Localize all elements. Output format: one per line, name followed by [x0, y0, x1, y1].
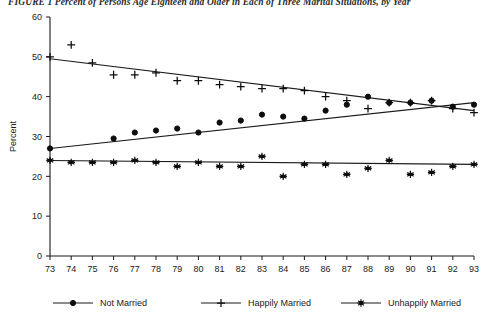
- data-point-marker: [110, 71, 118, 79]
- chart-plot-area: 0102030405060737475767778798081828384858…: [0, 10, 495, 275]
- data-point-core: [303, 163, 306, 166]
- x-tick-label: 76: [109, 264, 119, 274]
- data-point-marker: [47, 146, 52, 151]
- y-tick-label: 50: [32, 52, 42, 62]
- data-point-marker: [217, 120, 222, 125]
- data-point-marker: [175, 126, 180, 131]
- x-tick-label: 80: [193, 264, 203, 274]
- asterisk-star-marker: [340, 297, 382, 309]
- legend-item-not-married[interactable]: Not Married: [52, 292, 147, 314]
- x-tick-label: 87: [342, 264, 352, 274]
- y-axis-title: Percent: [8, 120, 18, 152]
- data-point-marker: [407, 99, 415, 107]
- data-point-marker: [237, 83, 245, 91]
- x-tick-label: 75: [87, 264, 97, 274]
- figure-title: FIGURE 1 Percent of Persons Age Eighteen…: [8, 0, 495, 7]
- data-point-marker: [132, 130, 137, 135]
- data-point-marker: [471, 102, 476, 107]
- data-point-core: [70, 161, 73, 164]
- data-point-marker: [131, 71, 139, 79]
- data-point-marker: [152, 69, 160, 77]
- data-point-marker: [365, 94, 370, 99]
- filled-circle-marker: [52, 297, 94, 309]
- y-tick-label: 60: [32, 12, 42, 22]
- y-tick-label: 30: [32, 132, 42, 142]
- data-point-core: [409, 173, 412, 176]
- data-point-core: [176, 165, 179, 168]
- data-point-core: [155, 161, 158, 164]
- data-point-marker: [196, 130, 201, 135]
- data-point-core: [324, 163, 327, 166]
- x-tick-label: 79: [172, 264, 182, 274]
- data-point-core: [49, 159, 52, 162]
- data-point-marker: [322, 93, 330, 101]
- data-point-marker: [302, 116, 307, 121]
- data-point-marker: [238, 118, 243, 123]
- data-point-marker: [195, 77, 203, 85]
- x-tick-label: 86: [321, 264, 331, 274]
- data-point-marker: [258, 85, 266, 93]
- data-point-core: [345, 173, 348, 176]
- x-tick-label: 92: [448, 264, 458, 274]
- data-point-core: [261, 155, 264, 158]
- data-point-marker: [279, 85, 287, 93]
- data-point-core: [367, 167, 370, 170]
- data-point-marker: [216, 81, 224, 89]
- data-point-marker: [281, 114, 286, 119]
- data-point-core: [197, 161, 200, 164]
- data-point-marker: [259, 112, 264, 117]
- data-point-core: [239, 165, 242, 168]
- y-tick-label: 0: [37, 251, 42, 261]
- legend-label: Happily Married: [248, 298, 311, 308]
- data-point-core: [430, 171, 433, 174]
- x-tick-label: 83: [257, 264, 267, 274]
- legend-label: Unhappily Married: [388, 298, 461, 308]
- data-point-marker: [153, 128, 158, 133]
- data-point-core: [473, 163, 476, 166]
- data-point-core: [112, 161, 115, 164]
- plus-cross-marker: [200, 297, 242, 309]
- data-point-core: [451, 165, 454, 168]
- y-tick-label: 10: [32, 211, 42, 221]
- x-tick-label: 78: [151, 264, 161, 274]
- scatter-chart: 0102030405060737475767778798081828384858…: [0, 10, 495, 275]
- data-point-marker: [364, 105, 372, 113]
- legend-item-unhappily-married[interactable]: Unhappily Married: [340, 292, 461, 314]
- data-point-core: [388, 159, 391, 162]
- x-tick-label: 90: [405, 264, 415, 274]
- x-tick-label: 84: [278, 264, 288, 274]
- x-tick-label: 82: [236, 264, 246, 274]
- x-tick-label: 73: [45, 264, 55, 274]
- legend-item-happily-married[interactable]: Happily Married: [200, 292, 311, 314]
- data-point-marker: [67, 41, 75, 49]
- x-tick-label: 89: [384, 264, 394, 274]
- data-point-core: [133, 159, 136, 162]
- x-tick-label: 85: [299, 264, 309, 274]
- data-point-core: [282, 175, 285, 178]
- data-point-marker: [301, 87, 309, 95]
- x-tick-label: 81: [215, 264, 225, 274]
- data-point-core: [91, 161, 94, 164]
- y-tick-label: 20: [32, 172, 42, 182]
- data-point-marker: [111, 136, 116, 141]
- data-point-core: [218, 165, 221, 168]
- data-point-marker: [89, 59, 97, 67]
- x-tick-label: 88: [363, 264, 373, 274]
- x-tick-label: 77: [130, 264, 140, 274]
- data-point-marker: [323, 108, 328, 113]
- data-point-marker: [428, 97, 436, 105]
- data-point-marker: [173, 77, 181, 85]
- y-tick-label: 40: [32, 92, 42, 102]
- chart-legend: Not MarriedHappily MarriedUnhappily Marr…: [0, 292, 495, 321]
- x-tick-label: 91: [427, 264, 437, 274]
- x-tick-label: 74: [66, 264, 76, 274]
- x-tick-label: 93: [469, 264, 479, 274]
- legend-label: Not Married: [100, 298, 147, 308]
